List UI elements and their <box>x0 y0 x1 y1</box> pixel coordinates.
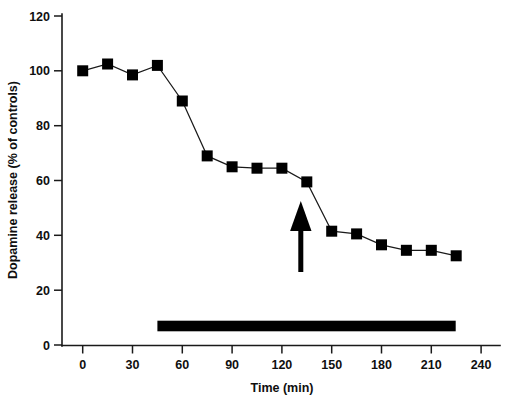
data-point-marker <box>127 69 138 80</box>
data-series-markers <box>77 59 462 262</box>
y-tick-label-100: 100 <box>29 64 50 78</box>
data-point-marker <box>102 59 113 70</box>
x-axis-ticks: 0 30 60 90 120 150 180 210 240 <box>79 346 491 373</box>
x-tick-label-0: 0 <box>79 358 86 372</box>
x-tick-label-60: 60 <box>175 358 189 372</box>
data-point-marker <box>326 226 337 237</box>
dopamine-release-time-course-chart: 120 100 80 60 40 20 0 0 30 60 90 120 150… <box>0 0 511 408</box>
x-tick-label-150: 150 <box>321 358 342 372</box>
data-point-marker <box>252 163 263 174</box>
treatment-bar <box>157 321 455 332</box>
stimulus-arrow-icon <box>290 201 311 272</box>
x-axis-title: Time (min) <box>251 381 314 395</box>
data-series-line <box>83 64 457 256</box>
data-point-marker <box>451 250 462 261</box>
x-tick-label-30: 30 <box>126 358 140 372</box>
data-point-marker <box>77 65 88 76</box>
data-point-marker <box>152 60 163 71</box>
x-tick-label-90: 90 <box>225 358 239 372</box>
data-point-marker <box>202 150 213 161</box>
y-tick-label-20: 20 <box>36 284 50 298</box>
y-axis-ticks: 120 100 80 60 40 20 0 <box>29 10 62 353</box>
y-axis-title: Dopamine release (% of controls) <box>6 81 20 279</box>
x-tick-label-120: 120 <box>271 358 292 372</box>
data-point-marker <box>401 245 412 256</box>
data-point-marker <box>376 239 387 250</box>
x-tick-label-180: 180 <box>371 358 392 372</box>
data-point-marker <box>276 163 287 174</box>
data-point-marker <box>426 245 437 256</box>
plot-axes <box>62 14 500 346</box>
data-point-marker <box>177 96 188 107</box>
x-tick-label-240: 240 <box>471 358 492 372</box>
y-tick-label-0: 0 <box>43 339 50 353</box>
data-point-marker <box>301 176 312 187</box>
data-point-marker <box>351 228 362 239</box>
y-tick-label-40: 40 <box>36 229 50 243</box>
y-tick-label-120: 120 <box>29 10 50 24</box>
y-tick-label-60: 60 <box>36 174 50 188</box>
y-tick-label-80: 80 <box>36 119 50 133</box>
x-tick-label-210: 210 <box>421 358 442 372</box>
data-point-marker <box>227 161 238 172</box>
